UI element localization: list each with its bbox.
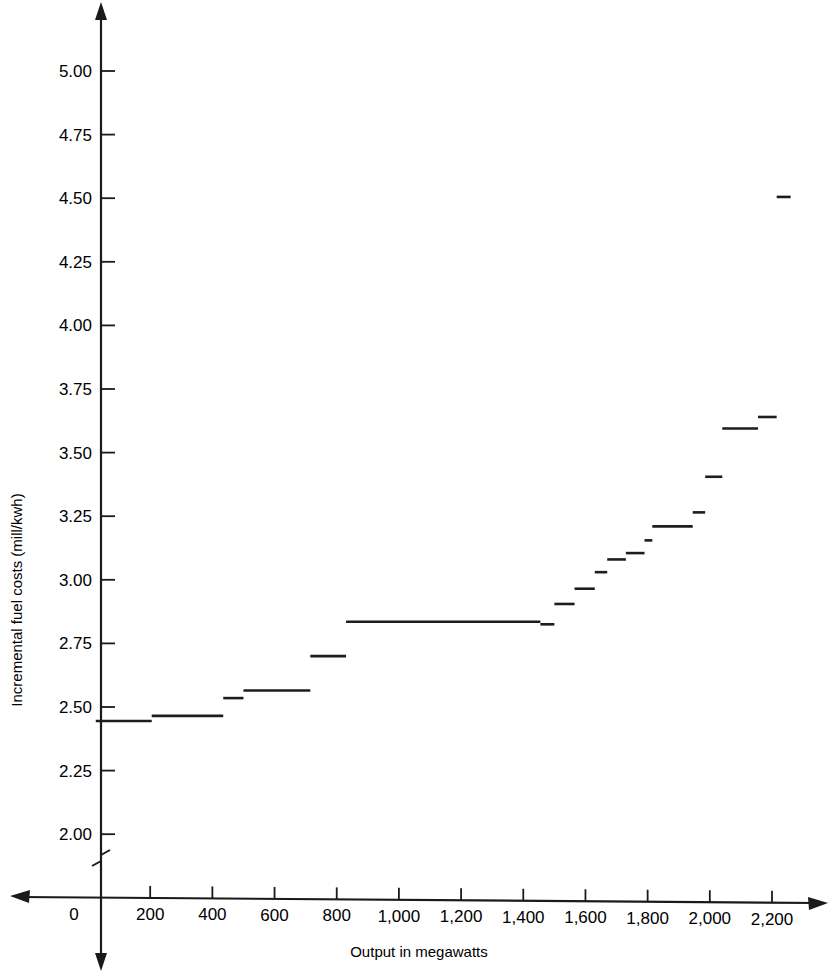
y-tick-label: 2.00 (59, 825, 92, 844)
x-tick-label: 1,000 (378, 907, 421, 926)
y-tick-label: 3.00 (59, 571, 92, 590)
x-tick-label: 0 (69, 905, 78, 924)
x-tick-label: 2,000 (689, 909, 732, 928)
y-tick-label: 2.25 (59, 762, 92, 781)
y-axis-title: Incremental fuel costs (mill/kwh) (8, 493, 25, 706)
x-tick-label: 1,200 (440, 907, 483, 926)
x-tick-group: 02004006008001,0001,2001,4001,6001,8002,… (69, 886, 793, 929)
x-tick-label: 600 (260, 906, 288, 925)
y-tick-label: 5.00 (59, 62, 92, 81)
y-tick-label: 3.75 (59, 380, 92, 399)
x-tick-label: 200 (136, 905, 164, 924)
y-tick-group: 2.002.252.502.753.003.253.503.754.004.25… (59, 62, 115, 844)
x-tick-label: 1,400 (502, 908, 545, 927)
y-tick-label: 4.50 (59, 189, 92, 208)
x-axis-arrow-left-icon (10, 890, 30, 903)
incremental-fuel-cost-chart: 2.002.252.502.753.003.253.503.754.004.25… (0, 0, 838, 973)
y-tick-label: 4.75 (59, 126, 92, 145)
x-tick-label: 1,600 (564, 908, 607, 927)
x-tick-label: 400 (198, 905, 226, 924)
x-axis-arrow-right-icon (808, 897, 828, 910)
step-series-group (96, 197, 791, 721)
x-axis-line (20, 897, 818, 903)
y-tick-label: 4.25 (59, 253, 92, 272)
chart-canvas: 2.002.252.502.753.003.253.503.754.004.25… (0, 0, 838, 973)
y-axis-arrow-down-icon (95, 953, 107, 971)
y-tick-label: 4.00 (59, 316, 92, 335)
x-tick-label: 800 (323, 906, 351, 925)
x-tick-label: 1,800 (626, 909, 669, 928)
y-tick-label: 3.25 (59, 507, 92, 526)
y-tick-label: 2.75 (59, 634, 92, 653)
y-axis-arrow-up-icon (95, 2, 107, 20)
x-tick-label: 2,200 (751, 910, 794, 929)
y-axis-group (92, 2, 110, 971)
y-tick-label: 2.50 (59, 698, 92, 717)
x-axis-title: Output in megawatts (350, 943, 488, 960)
y-tick-label: 3.50 (59, 444, 92, 463)
